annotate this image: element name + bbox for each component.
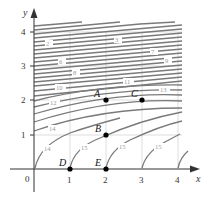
contour-label: 8 [73, 69, 76, 76]
x-tick-label: 1 [67, 175, 72, 185]
contour-label: 9 [165, 57, 168, 64]
point-b-marker [103, 132, 108, 137]
contour-label: 2 [46, 40, 49, 47]
x-axis-label: x [195, 173, 201, 184]
contour-label: 14 [49, 125, 56, 132]
x-tick-label: 4 [175, 175, 180, 185]
contour-label: 15 [155, 143, 162, 150]
point-d-marker [67, 166, 72, 171]
point-e-marker [103, 166, 108, 171]
point-a-label: A [93, 88, 101, 99]
contour-label: 12 [50, 99, 57, 106]
y-tick-label: 1 [21, 130, 26, 140]
point-a-marker [103, 97, 108, 102]
point-d-label: D [58, 157, 67, 168]
origin-label: 0 [25, 174, 30, 184]
x-tick-label: 3 [139, 175, 144, 185]
contour-label: 15 [81, 144, 88, 151]
point-c-marker [139, 97, 144, 102]
point-e-label: E [94, 157, 101, 168]
x-axis-arrow-icon [190, 166, 200, 173]
contour-label: 10 [56, 84, 63, 91]
y-tick-label: 3 [21, 61, 26, 71]
contour-label: 15 [119, 143, 126, 150]
contour-label: 11 [124, 78, 130, 85]
y-tick-label: 4 [21, 27, 26, 37]
point-c-label: C [131, 88, 138, 99]
point-b-label: B [95, 123, 101, 134]
y-axis-label: y [22, 7, 28, 18]
contour-label: 14 [44, 145, 51, 152]
x-tick-label: 2 [103, 175, 108, 185]
contour-label: 13 [160, 86, 167, 93]
y-axis-arrow-icon [31, 8, 38, 18]
y-tick-label: 2 [21, 95, 26, 105]
contour-label: 3 [115, 36, 118, 43]
contour-plot: x y 0 1 2 3 4 1 2 3 4 2 3 6 7 8 9 10 11 … [0, 0, 207, 200]
